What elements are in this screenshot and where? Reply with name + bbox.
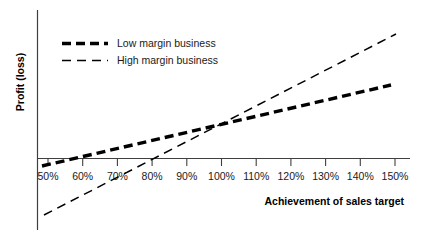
x-tick-label-80: 80% [142, 170, 163, 182]
x-tick-label-150: 150% [382, 170, 409, 182]
x-tick-label-130: 130% [312, 170, 339, 182]
profit-vs-sales-target-chart: 50% 60% 70% 80% 90% 100% 110% 120% 130% … [0, 0, 432, 240]
x-axis-tick-labels: 50% 60% 70% 80% 90% 100% 110% 120% 130% … [37, 170, 408, 182]
y-axis-title: Profit (loss) [14, 53, 26, 111]
chart-canvas: 50% 60% 70% 80% 90% 100% 110% 120% 130% … [0, 0, 432, 240]
x-tick-label-100: 100% [208, 170, 235, 182]
x-tick-label-90: 90% [176, 170, 197, 182]
legend-label-high-margin-business: High margin business [117, 54, 218, 66]
x-tick-label-110: 110% [243, 170, 269, 182]
x-tick-label-120: 120% [277, 170, 304, 182]
x-tick-label-60: 60% [72, 170, 93, 182]
x-tick-label-50: 50% [37, 170, 58, 182]
legend-label-low-margin-business: Low margin business [117, 37, 216, 49]
x-tick-label-70: 70% [107, 170, 128, 182]
x-tick-label-140: 140% [347, 170, 374, 182]
x-axis-title: Achievement of sales target [265, 195, 405, 207]
